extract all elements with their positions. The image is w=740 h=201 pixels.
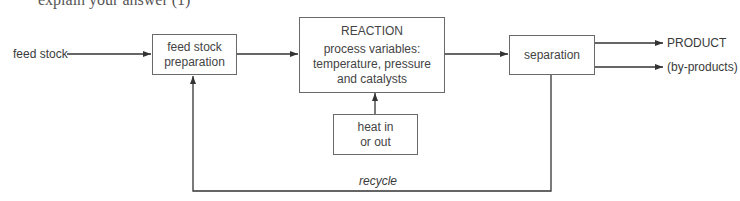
preparation-line2: preparation (164, 55, 225, 70)
heat-line2: or out (360, 135, 391, 150)
recycle-label: recycle (359, 174, 397, 188)
heat-line1: heat in (357, 120, 393, 135)
reaction-title: REACTION (341, 24, 403, 39)
preparation-line1: feed stock (167, 40, 222, 55)
feed-stock-label: feed stock (13, 47, 68, 61)
reaction-line2: temperature, pressure (313, 57, 431, 72)
separation-box: separation (509, 35, 595, 75)
reaction-box: REACTION process variables: temperature,… (299, 17, 445, 93)
product-label: PRODUCT (667, 36, 726, 50)
process-flow-diagram: explain your answer (1) feed stock feed … (0, 0, 740, 201)
separation-label: separation (524, 48, 580, 63)
reaction-line3: and catalysts (337, 72, 407, 87)
heat-box: heat in or out (333, 114, 418, 155)
reaction-line1: process variables: (324, 42, 421, 57)
feed-stock-preparation-box: feed stock preparation (152, 34, 237, 75)
byproducts-label: (by-products) (667, 60, 738, 74)
